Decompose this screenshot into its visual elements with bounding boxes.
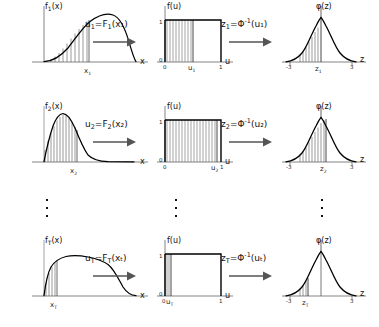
row-2-mid-tick-left: 0 xyxy=(163,165,167,171)
ellipsis-dot xyxy=(46,215,48,217)
right-arrow-icon xyxy=(227,268,273,284)
right-arrow-icon xyxy=(91,34,137,50)
row-1-mid-x-axis-label: u xyxy=(225,58,230,66)
row-T-x-marker-label: xT xyxy=(50,302,57,309)
row-2-mid-tick-origin: 0 xyxy=(159,158,163,164)
pipeline-row-2: f2(x) x x2 u2=F2(x₂) xyxy=(0,100,379,195)
row-1-y-axis-label: f1(x) xyxy=(45,3,63,11)
row-T-z-tick-left: -3 xyxy=(286,299,291,305)
row-T-x-axis-label: x xyxy=(140,292,145,300)
pipeline-row-T: fT(x) x xT uT=FT(xₜ) f( xyxy=(0,234,379,327)
right-arrow-icon xyxy=(227,134,273,150)
row-T-z-tick-right: 3 xyxy=(350,299,354,305)
row-1-mid-y-axis-label: f(u) xyxy=(167,3,181,11)
row-T-normal-x-axis-label: z xyxy=(360,290,364,298)
row-2-y-axis-label: f2(x) xyxy=(45,103,63,111)
row-T-y-axis-label: fT(x) xyxy=(45,237,62,245)
ellipsis-dot xyxy=(321,215,323,217)
row-1-z-tick-right: 3 xyxy=(350,65,354,71)
row-1-mid-tick-top: 1 xyxy=(159,20,163,26)
row-1-mid-tick-origin: 0 xyxy=(159,58,163,64)
row-2-z-marker-label: z2 xyxy=(320,166,327,173)
row-2-normal-x-axis-label: z xyxy=(360,156,364,164)
row-2-x-axis-label: x xyxy=(140,158,145,166)
row-1-uniform-density-panel: f(u) u 1 0 0 1 u1 xyxy=(155,4,235,76)
row-2-normal-density-panel: φ(z) z -3 3 z2 xyxy=(280,104,376,176)
ellipsis-dot xyxy=(46,207,48,209)
row-2-mid-tick-top: 1 xyxy=(159,120,163,126)
ellipsis-dot xyxy=(175,199,177,201)
row-2-z-tick-left: -3 xyxy=(286,165,291,171)
row-T-normal-y-axis-label: φ(z) xyxy=(316,237,332,245)
row-2-arrow-1-label: u2=F2(x₂) xyxy=(85,120,128,129)
row-2-u-marker-label: u2 xyxy=(211,165,218,172)
row-2-uniform-density-panel: f(u) u 1 0 0 1 u2 xyxy=(155,104,235,176)
row-T-u-marker-label: uT xyxy=(166,299,173,306)
row-T-uniform-density-panel: f(u) u 1 0 0 1 uT xyxy=(155,238,235,310)
row-T-z-marker-label: zT xyxy=(302,300,308,307)
row-1-u-marker-label: u1 xyxy=(188,65,195,72)
row-T-arrow-2-label: zT=Φ-1(uₜ) xyxy=(221,254,266,263)
row-2-x-marker-label: x2 xyxy=(70,168,77,175)
row-T-mid-tick-top: 1 xyxy=(159,254,163,260)
right-arrow-icon xyxy=(91,134,137,150)
right-arrow-icon xyxy=(91,268,137,284)
ellipsis-middle-column xyxy=(175,199,177,223)
figure-canvas: f1(x) x x1 u1=F1(x₁) xyxy=(0,0,379,327)
ellipsis-dot xyxy=(175,207,177,209)
row-T-mid-tick-origin: 0 xyxy=(159,292,163,298)
row-1-z-marker-label: z1 xyxy=(315,66,322,73)
row-T-mid-y-axis-label: f(u) xyxy=(167,237,181,245)
row-T-mid-tick-right: 1 xyxy=(219,299,223,305)
ellipsis-dot xyxy=(46,199,48,201)
row-T-mid-x-axis-label: u xyxy=(225,292,230,300)
row-2-z-tick-right: 3 xyxy=(350,165,354,171)
pipeline-row-1: f1(x) x x1 u1=F1(x₁) xyxy=(0,0,379,95)
row-1-arrow-1-label: u1=F1(x₁) xyxy=(85,20,128,29)
row-2-mid-y-axis-label: f(u) xyxy=(167,103,181,111)
row-T-normal-density-panel: φ(z) z -3 3 zT xyxy=(280,238,376,310)
ellipsis-left-column xyxy=(46,199,48,223)
ellipsis-dot xyxy=(321,207,323,209)
ellipsis-right-column xyxy=(321,199,323,223)
row-1-normal-y-axis-label: φ(z) xyxy=(316,3,332,11)
row-T-arrow-1-label: uT=FT(xₜ) xyxy=(85,254,126,263)
right-arrow-icon xyxy=(227,34,273,50)
row-1-normal-x-axis-label: z xyxy=(360,56,364,64)
ellipsis-dot xyxy=(175,215,177,217)
row-2-mid-tick-right: 1 xyxy=(220,165,224,171)
row-1-normal-density-panel: φ(z) z -3 3 z1 xyxy=(280,4,376,76)
row-1-mid-tick-left: 0 xyxy=(163,65,167,71)
row-1-x-marker-label: x1 xyxy=(84,68,91,75)
row-1-mid-tick-right: 1 xyxy=(219,65,223,71)
ellipsis-dot xyxy=(321,199,323,201)
row-1-x-axis-label: x xyxy=(140,58,145,66)
row-1-arrow-2-label: z1=Φ-1(u₁) xyxy=(221,20,267,29)
row-2-normal-y-axis-label: φ(z) xyxy=(316,103,332,111)
row-2-mid-x-axis-label: u xyxy=(225,158,230,166)
row-1-z-tick-left: -3 xyxy=(286,65,291,71)
row-2-arrow-2-label: z2=Φ-1(u₂) xyxy=(221,120,267,129)
row-T-mid-tick-left: 0 xyxy=(162,299,166,305)
